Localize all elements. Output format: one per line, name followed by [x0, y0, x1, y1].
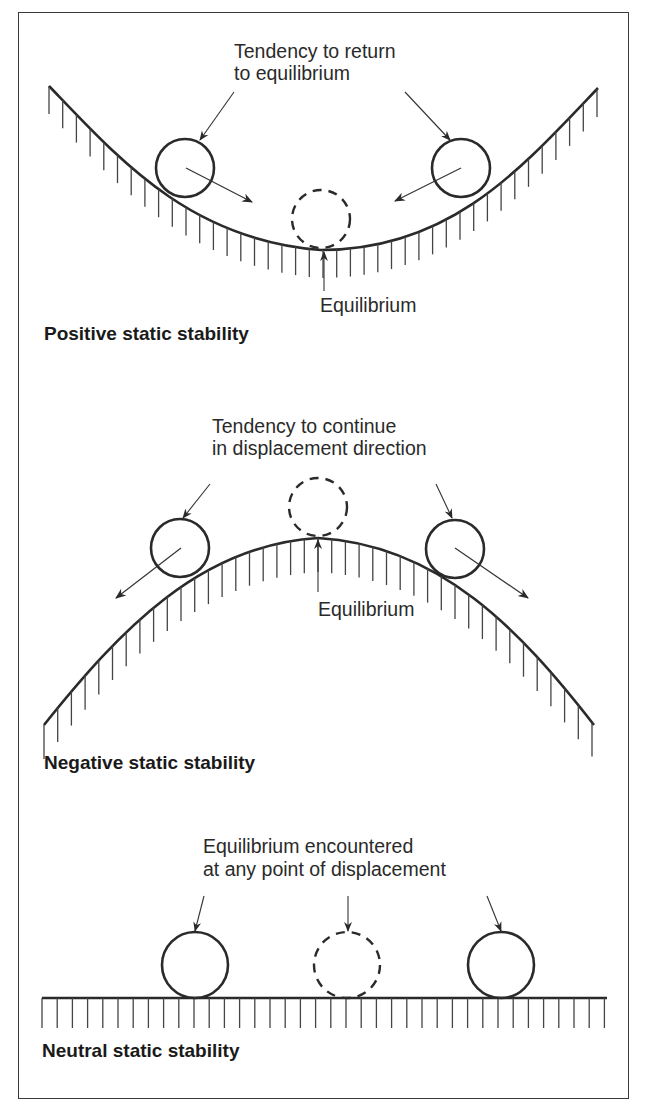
hill-surface — [44, 538, 594, 725]
neutral-annotation-line1: Equilibrium encountered — [203, 835, 413, 857]
flat-hatching — [42, 998, 604, 1028]
tendency-arrow-left-icon — [186, 168, 252, 202]
pointer-arrow-left-icon — [200, 92, 234, 140]
equilibrium-ball-icon — [314, 932, 380, 998]
pointer-arrow-left-icon — [195, 896, 204, 931]
negative-panel-title: Negative static stability — [44, 752, 255, 774]
ball-left-icon — [156, 139, 214, 197]
tendency-arrow-right-icon — [455, 548, 528, 598]
neutral-panel — [42, 896, 607, 1028]
neutral-panel-title: Neutral static stability — [42, 1040, 239, 1062]
pointer-arrow-left-icon — [183, 484, 210, 518]
pointer-arrow-right-icon — [436, 484, 452, 518]
negative-annotation-line2: in displacement direction — [212, 437, 427, 459]
positive-panel — [49, 86, 598, 291]
stability-diagram — [0, 0, 650, 1118]
equilibrium-ball-icon — [292, 190, 350, 248]
tendency-arrow-left-icon — [116, 548, 181, 598]
ball-left-icon — [162, 932, 228, 998]
positive-annotation-line1: Tendency to return — [234, 40, 396, 62]
pointer-arrow-right-icon — [405, 92, 450, 140]
positive-annotation-line2: to equilibrium — [234, 62, 350, 84]
negative-equilibrium-label: Equilibrium — [318, 598, 414, 620]
ball-right-icon — [468, 932, 534, 998]
equilibrium-ball-icon — [289, 478, 347, 536]
negative-annotation-line1: Tendency to continue — [212, 415, 396, 437]
ball-right-icon — [426, 520, 484, 578]
ball-left-icon — [151, 519, 209, 577]
neutral-annotation-line2: at any point of displacement — [203, 858, 446, 880]
positive-equilibrium-label: Equilibrium — [320, 294, 416, 316]
pointer-arrow-right-icon — [487, 896, 501, 931]
positive-panel-title: Positive static stability — [44, 323, 249, 345]
